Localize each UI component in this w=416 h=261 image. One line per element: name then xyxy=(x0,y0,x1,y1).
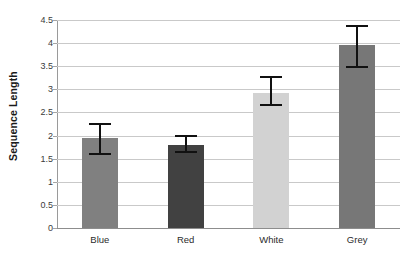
error-bar-lower-cap xyxy=(346,66,368,68)
y-axis-tick-mark xyxy=(53,159,57,160)
x-axis-line xyxy=(57,228,400,229)
y-axis-tick-label: 4.5 xyxy=(40,15,53,25)
y-axis-tick-label: 0.5 xyxy=(40,200,53,210)
error-bar-lower-cap xyxy=(260,104,282,106)
error-bar-lower-cap xyxy=(89,153,111,155)
bar-chart-figure: Sequence Length 00.511.522.533.544.5 Blu… xyxy=(0,0,416,261)
x-axis-label-blue: Blue xyxy=(90,234,109,245)
bar-grey xyxy=(339,45,375,228)
y-axis-title: Sequence Length xyxy=(7,71,19,161)
error-bar-grey xyxy=(339,25,375,68)
x-axis-tick-labels: BlueRedWhiteGrey xyxy=(57,234,400,254)
error-bar-lower-cap xyxy=(175,151,197,153)
y-axis-tick-mark xyxy=(53,66,57,67)
error-bar-upper-cap xyxy=(89,123,111,125)
error-bar-upper-cap xyxy=(260,76,282,78)
y-axis-tick-labels: 00.511.522.533.544.5 xyxy=(26,0,57,261)
gridline xyxy=(57,20,400,21)
y-axis-title-container: Sequence Length xyxy=(0,0,26,232)
y-axis-tick-mark xyxy=(53,228,57,229)
y-axis-tick-label: 1.5 xyxy=(40,154,53,164)
y-axis-tick-mark xyxy=(53,205,57,206)
y-axis-tick-label: 2.5 xyxy=(40,107,53,117)
error-bar-upper-cap xyxy=(175,135,197,137)
y-axis-line xyxy=(57,20,58,228)
y-axis-tick-mark xyxy=(53,112,57,113)
error-bar-stem xyxy=(270,76,272,106)
error-bar-upper-cap xyxy=(346,25,368,27)
y-axis-tick-mark xyxy=(53,43,57,44)
bar-white xyxy=(253,93,289,228)
error-bar-stem xyxy=(356,25,358,68)
bar-red xyxy=(168,145,204,228)
y-axis-tick-mark xyxy=(53,136,57,137)
x-axis-label-red: Red xyxy=(177,234,194,245)
y-axis-tick-mark xyxy=(53,182,57,183)
y-axis-tick-mark xyxy=(53,89,57,90)
plot-area xyxy=(57,20,400,228)
y-axis-tick-mark xyxy=(53,20,57,21)
error-bar-red xyxy=(168,135,204,153)
x-axis-label-white: White xyxy=(259,234,283,245)
error-bar-white xyxy=(253,76,289,106)
x-axis-label-grey: Grey xyxy=(347,234,368,245)
error-bar-blue xyxy=(82,123,118,156)
y-axis-tick-label: 3.5 xyxy=(40,61,53,71)
error-bar-stem xyxy=(99,123,101,156)
